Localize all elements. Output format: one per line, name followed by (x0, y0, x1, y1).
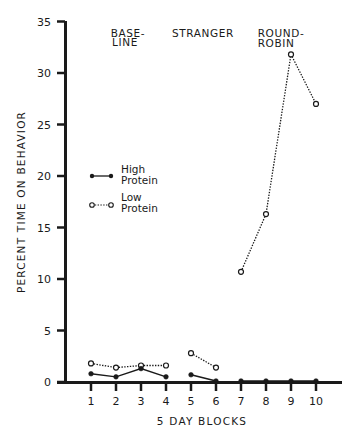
x-tick-label: 10 (309, 395, 323, 408)
open-circle-marker-icon (189, 351, 194, 356)
x-tick-label: 8 (263, 395, 270, 408)
y-tick-label: 0 (44, 376, 51, 389)
open-circle-marker-icon (214, 365, 219, 370)
x-tick-label: 9 (288, 395, 295, 408)
x-tick-label: 1 (88, 395, 95, 408)
x-axis-ticks: 12345678910 (88, 382, 324, 408)
filled-circle-marker-icon (139, 366, 144, 371)
y-tick-label: 5 (44, 325, 51, 338)
x-tick-label: 7 (238, 395, 245, 408)
series-line (241, 54, 316, 271)
filled-circle-marker-icon (314, 379, 319, 384)
filled-circle-marker-icon (289, 379, 294, 384)
y-axis-title: PERCENT TIME ON BEHAVIOR (15, 111, 27, 293)
open-circle-marker-icon (114, 365, 119, 370)
y-tick-label: 30 (37, 67, 51, 80)
y-tick-label: 25 (37, 119, 51, 132)
open-circle-marker-icon (289, 52, 294, 57)
series-line (91, 363, 166, 367)
filled-circle-marker-icon (89, 371, 94, 376)
x-tick-label: 3 (138, 395, 145, 408)
filled-circle-marker-icon (189, 372, 194, 377)
series-line (191, 353, 216, 367)
filled-circle-marker-icon (214, 379, 219, 384)
line-chart: 05101520253035 12345678910 PERCENT TIME … (0, 0, 357, 438)
phase-baseline-line2: LINE (112, 36, 138, 48)
x-tick-label: 5 (188, 395, 195, 408)
x-tick-label: 6 (213, 395, 220, 408)
series-line (91, 369, 166, 377)
y-tick-label: 10 (37, 273, 51, 286)
phase-labels: BASE- LINE STRANGER ROUND- ROBIN (111, 27, 305, 49)
legend: High Protein Low Protein (90, 163, 158, 214)
open-circle-marker-icon (314, 101, 319, 106)
filled-circle-marker-icon (90, 174, 94, 178)
y-tick-label: 15 (37, 222, 51, 235)
y-tick-label: 20 (37, 170, 51, 183)
open-circle-marker-icon (109, 203, 114, 208)
legend-item-high-protein: High Protein (90, 163, 158, 186)
filled-circle-marker-icon (264, 379, 269, 384)
filled-circle-marker-icon (239, 379, 244, 384)
open-circle-marker-icon (239, 269, 244, 274)
y-axis-ticks: 05101520253035 (37, 16, 65, 390)
legend-label-protein: Protein (121, 202, 158, 214)
y-tick-label: 35 (37, 16, 51, 29)
x-axis: 12345678910 (57, 382, 342, 408)
open-circle-marker-icon (264, 212, 269, 217)
legend-item-low-protein: Low Protein (90, 191, 158, 214)
y-axis: 05101520253035 (37, 16, 66, 390)
filled-circle-marker-icon (164, 375, 169, 380)
phase-stranger: STRANGER (172, 27, 234, 39)
open-circle-marker-icon (90, 203, 95, 208)
legend-label-protein: Protein (121, 174, 158, 186)
filled-circle-marker-icon (114, 375, 119, 380)
x-tick-label: 2 (113, 395, 120, 408)
open-circle-marker-icon (89, 361, 94, 366)
x-axis-title: 5 DAY BLOCKS (157, 415, 247, 427)
x-tick-label: 4 (163, 395, 170, 408)
series-high-protein (89, 366, 319, 383)
series-line (191, 375, 216, 381)
open-circle-marker-icon (164, 363, 169, 368)
phase-round-robin-line2: ROBIN (258, 37, 295, 49)
filled-circle-marker-icon (109, 174, 113, 178)
